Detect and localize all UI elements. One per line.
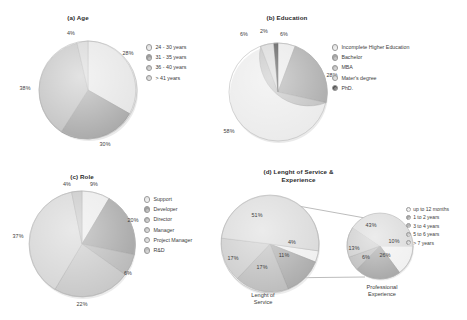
legend-swatch-icon xyxy=(146,54,152,60)
legend-item-label: 31 - 35 years xyxy=(155,54,186,61)
age-pct-38: 38% xyxy=(14,85,36,91)
legend-item-label: Director xyxy=(153,216,172,223)
service-pct-11: 11% xyxy=(274,252,294,258)
legend-swatch-icon xyxy=(332,75,338,81)
role-pct-20: 20% xyxy=(123,217,143,223)
education-pct-58: 58% xyxy=(219,128,239,134)
service-pie-svg xyxy=(218,192,322,296)
education-pie xyxy=(226,40,330,144)
service-legend: up to 12 months 1 to 2 years 3 to 4 year… xyxy=(406,206,449,248)
service-sublabel-line1: Lenght of xyxy=(238,292,288,299)
legend-item[interactable]: Manager xyxy=(144,227,192,234)
service-pct-17a: 17% xyxy=(223,255,243,261)
legend-item-label: up to 12 months xyxy=(413,206,449,212)
legend-item[interactable]: 3 to 4 years xyxy=(406,223,449,229)
legend-swatch-icon xyxy=(406,232,411,237)
legend-item-label: Project Manager xyxy=(153,237,192,244)
legend-swatch-icon xyxy=(332,54,338,60)
experience-pct-43: 43% xyxy=(361,222,381,228)
education-pct-6a: 6% xyxy=(235,31,253,37)
service-pct-17b: 17% xyxy=(252,264,272,270)
legend-item[interactable]: 1 to 2 years xyxy=(406,214,449,220)
experience-sublabel-line2: Experience xyxy=(352,291,412,298)
panel-education: (b) Education xyxy=(234,0,467,160)
panel-service-title-line2: Experience xyxy=(246,176,351,184)
role-pct-4: 4% xyxy=(57,181,77,187)
legend-item-label: R&D xyxy=(153,247,164,254)
education-legend: Incomplete Higher Education Bachelor MBA… xyxy=(332,44,409,95)
legend-item[interactable]: 24 - 30 years xyxy=(146,44,186,51)
legend-swatch-icon xyxy=(144,227,150,233)
panel-service-experience: (d) Lenght of Service & Experience xyxy=(234,160,467,320)
service-pie xyxy=(218,192,322,296)
legend-item[interactable]: Developer xyxy=(144,206,192,213)
legend-item-label: 5 to 6 years xyxy=(413,231,439,237)
panel-service-title-line1: (d) Lenght of Service & xyxy=(246,168,351,176)
legend-item-label: Support xyxy=(153,196,172,203)
experience-pct-6: 6% xyxy=(357,254,375,260)
legend-swatch-icon xyxy=(332,85,338,91)
panel-education-title: (b) Education xyxy=(242,14,332,22)
panel-age: (a) Age xyxy=(0,0,234,160)
legend-swatch-icon xyxy=(406,240,411,245)
legend-swatch-icon xyxy=(146,44,152,50)
experience-pct-26: 26% xyxy=(375,252,395,258)
legend-swatch-icon xyxy=(146,65,152,71)
experience-pct-10: 10% xyxy=(384,238,404,244)
role-pct-9: 9% xyxy=(84,181,104,187)
legend-item[interactable]: Incomplete Higher Education xyxy=(332,44,409,51)
legend-item[interactable]: Project Manager xyxy=(144,237,192,244)
legend-item[interactable]: Bachelor xyxy=(332,54,409,61)
legend-swatch-icon xyxy=(332,65,338,71)
legend-swatch-icon xyxy=(144,217,150,223)
role-legend: Support Developer Director Manager Proje… xyxy=(144,196,192,257)
legend-swatch-icon xyxy=(406,223,411,228)
experience-sublabel-line1: Professional xyxy=(352,284,412,291)
figure-root: (a) Age xyxy=(0,0,467,320)
role-pct-22: 22% xyxy=(72,301,92,307)
legend-item[interactable]: > 41 years xyxy=(146,75,186,82)
service-pct-51: 51% xyxy=(247,212,267,218)
legend-item[interactable]: up to 12 months xyxy=(406,206,449,212)
legend-item-label: PhD. xyxy=(341,85,353,92)
legend-item[interactable]: > 7 years xyxy=(406,240,449,246)
legend-item-label: 3 to 4 years xyxy=(413,223,439,229)
legend-swatch-icon xyxy=(146,75,152,81)
legend-swatch-icon xyxy=(144,196,150,202)
legend-item[interactable]: R&D xyxy=(144,247,192,254)
role-pct-6: 6% xyxy=(118,270,138,276)
age-pct-4: 4% xyxy=(60,30,82,36)
legend-item-label: > 7 years xyxy=(413,240,434,246)
legend-item-label: > 41 years xyxy=(155,75,180,82)
panel-role: (c) Role xyxy=(0,160,234,320)
legend-item-label: Bachelor xyxy=(341,54,362,61)
age-legend: 24 - 30 years 31 - 35 years 36 - 40 year… xyxy=(146,44,186,85)
legend-swatch-icon xyxy=(144,247,150,253)
legend-item[interactable]: Director xyxy=(144,216,192,223)
legend-swatch-icon xyxy=(332,44,338,50)
legend-item-label: 36 - 40 years xyxy=(155,64,186,71)
education-pct-6b: 6% xyxy=(275,31,293,37)
legend-swatch-icon xyxy=(406,207,411,212)
legend-item[interactable]: Support xyxy=(144,196,192,203)
legend-item[interactable]: MBA xyxy=(332,64,409,71)
legend-item[interactable]: Mater's degree xyxy=(332,75,409,82)
legend-item-label: Mater's degree xyxy=(341,75,376,82)
legend-item-label: 24 - 30 years xyxy=(155,44,186,51)
legend-item[interactable]: 36 - 40 years xyxy=(146,64,186,71)
education-pie-svg xyxy=(226,40,330,144)
legend-item-label: Developer xyxy=(153,206,177,213)
legend-item-label: 1 to 2 years xyxy=(413,214,439,220)
role-pie-svg xyxy=(26,188,138,300)
service-sublabel-line2: Service xyxy=(238,299,288,306)
legend-item-label: Manager xyxy=(153,227,174,234)
legend-item-label: Incomplete Higher Education xyxy=(341,44,409,51)
role-pct-37: 37% xyxy=(8,233,28,239)
legend-item[interactable]: 31 - 35 years xyxy=(146,54,186,61)
education-pct-2: 2% xyxy=(255,28,273,34)
age-pct-30: 30% xyxy=(94,141,116,147)
legend-item[interactable]: PhD. xyxy=(332,85,409,92)
experience-pct-13: 13% xyxy=(344,245,364,251)
legend-item[interactable]: 5 to 6 years xyxy=(406,231,449,237)
age-pct-28: 28% xyxy=(117,50,139,56)
